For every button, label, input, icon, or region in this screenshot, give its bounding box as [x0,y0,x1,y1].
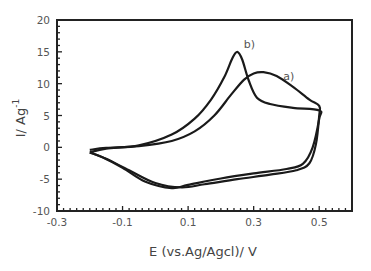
annotation-label: b) [244,38,255,51]
x-axis-tick-labels: -0.3-0.10.10.30.5 [47,216,328,228]
cyclic-voltammogram-chart: 20151050-5-10 -0.3-0.10.10.30.5 a)b) E (… [0,0,371,271]
x-tick-label: 0.3 [245,216,262,228]
y-tick-label: 15 [37,46,50,58]
y-axis-tick-labels: 20151050-5-10 [33,14,50,217]
svg-text:I/ Ag-1: I/ Ag-1 [11,99,28,137]
x-tick-label: 0.1 [180,216,197,228]
y-tick-label: -5 [40,173,50,185]
x-tick-label: -0.3 [47,216,68,228]
y-tick-label: 0 [43,141,50,153]
y-tick-label: 5 [43,110,50,122]
annotation-label: a) [283,70,294,83]
x-axis-title: E (vs.Ag/Agcl)/ V [149,244,257,259]
x-tick-label: -0.1 [112,216,133,228]
y-axis-title: I/ Ag-1 [11,99,28,137]
y-tick-label: 10 [37,78,50,90]
curve-annotations: a)b) [244,38,294,83]
y-tick-label: 20 [37,14,50,26]
x-tick-label: 0.5 [311,216,328,228]
